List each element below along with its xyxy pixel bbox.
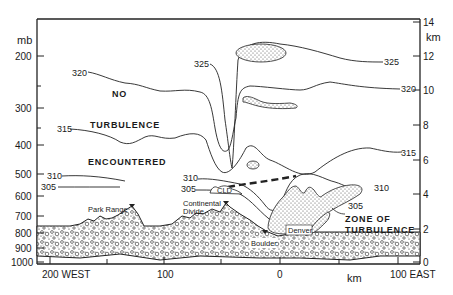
right-tick-6: 6 [423, 155, 429, 166]
right-tick-12: 12 [423, 51, 435, 62]
bottom-tick-0: 0 [277, 269, 283, 280]
turbulence-patch-upper [236, 44, 286, 62]
left-axis-unit: mb [17, 34, 32, 46]
dashed-boundary [228, 176, 296, 187]
cloud-label: CLD [217, 186, 233, 195]
right-axis-unit: km [426, 31, 441, 43]
isentrope-label-310-left: 310 [47, 171, 62, 181]
isentrope-310-left [62, 176, 125, 181]
right-tick-14: 14 [423, 17, 435, 28]
bottom-axis-unit: km [347, 272, 362, 284]
bottom-tick-100: 100 [157, 269, 174, 280]
cross-section-diagram: mb 200 300 400 500 600 700 800 900 1000 … [0, 0, 453, 295]
right-tick-8: 8 [423, 120, 429, 131]
right-tick-2: 2 [423, 224, 429, 235]
isentrope-label-310-right: 310 [374, 183, 389, 193]
annotation-zone-of: ZONE OF [345, 214, 391, 224]
right-tick-4: 4 [423, 189, 429, 200]
left-tick-900: 900 [15, 243, 32, 254]
bottom-tick-100-east: 100 EAST [390, 269, 436, 280]
annotation-no: NO [112, 89, 127, 99]
isentrope-label-320-right: 320 [401, 84, 416, 94]
left-tick-1000: 1000 [11, 257, 34, 268]
isentrope-320 [88, 72, 400, 151]
left-tick-300: 300 [15, 103, 32, 114]
isentrope-label-305-right: 305 [348, 201, 363, 211]
bottom-tick-200-west: 200 WEST [42, 269, 90, 280]
isentrope-label-310-center: 310 [183, 173, 198, 183]
park-range-label: Park Range [88, 205, 128, 214]
isentrope-label-325-center: 325 [194, 59, 209, 69]
annotation-encountered: ENCOUNTERED [88, 157, 166, 167]
annotation-zone-turbulence: TURBULENCE [345, 225, 415, 235]
isentrope-label-325-right: 325 [384, 57, 399, 67]
right-tick-10: 10 [423, 85, 435, 96]
isentrope-315 [70, 129, 402, 174]
left-tick-600: 600 [15, 191, 32, 202]
turbulence-patch-small [247, 161, 259, 169]
left-tick-500: 500 [15, 169, 32, 180]
isentrope-label-315-left: 315 [57, 124, 72, 134]
annotation-turbulence: TURBULENCE [90, 120, 160, 130]
boulder-label: Boulder [251, 239, 277, 248]
isentrope-label-305-center: 305 [181, 184, 196, 194]
left-tick-800: 800 [15, 228, 32, 239]
left-tick-200: 200 [15, 51, 32, 62]
continental-divide-label-2: Divide [183, 207, 204, 216]
turbulence-patch-middle [243, 97, 297, 109]
left-tick-400: 400 [15, 140, 32, 151]
left-tick-700: 700 [15, 211, 32, 222]
isentrope-label-320-left: 320 [72, 68, 87, 78]
isentrope-label-305-left: 305 [41, 182, 56, 192]
right-tick-0: 0 [423, 257, 429, 268]
isentrope-label-315-right: 315 [401, 148, 416, 158]
denver-label: Denver [288, 226, 313, 235]
